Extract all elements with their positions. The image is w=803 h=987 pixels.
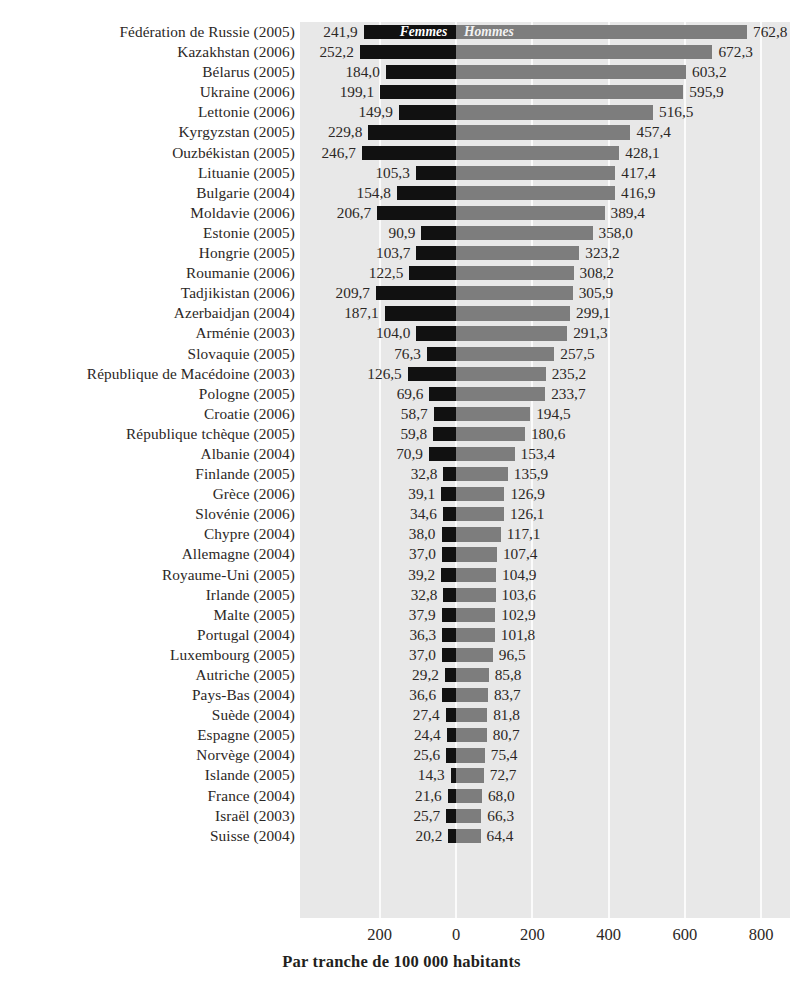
- x-tick-label: 0: [452, 922, 460, 948]
- bar-femmes: [442, 648, 456, 662]
- bars: 20,264,4: [0, 826, 803, 846]
- bars: 37,096,5: [0, 645, 803, 665]
- chart-row: Autriche (2005)29,285,8: [0, 665, 803, 685]
- value-label-femmes: 24,4: [414, 725, 441, 745]
- bars: 32,8135,9: [0, 464, 803, 484]
- bar-hommes: [456, 85, 683, 99]
- value-label-hommes: 81,8: [493, 705, 520, 725]
- bars: 199,1595,9: [0, 82, 803, 102]
- value-label-hommes: 308,2: [580, 263, 614, 283]
- value-label-femmes: 14,3: [418, 765, 445, 785]
- bar-hommes: [456, 809, 481, 823]
- value-label-femmes: 37,0: [409, 544, 436, 564]
- value-label-hommes: 428,1: [625, 143, 659, 163]
- bar-hommes: [456, 608, 495, 622]
- chart-row: Royaume-Uni (2005)39,2104,9: [0, 565, 803, 585]
- bar-femmes: [385, 306, 456, 320]
- x-axis: 2000200400600800: [0, 922, 803, 948]
- value-label-hommes: 257,5: [560, 344, 594, 364]
- bar-femmes: [409, 266, 456, 280]
- value-label-hommes: 358,0: [599, 223, 633, 243]
- bar-hommes: [456, 45, 712, 59]
- value-label-hommes: 103,6: [502, 585, 536, 605]
- value-label-hommes: 180,6: [531, 424, 565, 444]
- bar-hommes: [456, 347, 554, 361]
- value-label-femmes: 36,3: [409, 625, 436, 645]
- value-label-hommes: 66,3: [487, 806, 514, 826]
- chart-row: République de Macédoine (2003)126,5235,2: [0, 364, 803, 384]
- value-label-femmes: 20,2: [416, 826, 443, 846]
- bar-femmes: [408, 367, 456, 381]
- value-label-hommes: 762,8: [753, 22, 787, 42]
- value-label-femmes: 209,7: [336, 283, 370, 303]
- value-label-femmes: 154,8: [357, 183, 391, 203]
- value-label-hommes: 64,4: [487, 826, 514, 846]
- bar-hommes: [456, 829, 481, 843]
- value-label-femmes: 36,6: [409, 685, 436, 705]
- bar-hommes: [456, 668, 489, 682]
- bar-femmes: [429, 447, 456, 461]
- chart-row: Slovénie (2006)34,6126,1: [0, 504, 803, 524]
- x-axis-title-text: Par tranche de 100 000 habitants: [282, 952, 520, 971]
- chart-row: Norvège (2004)25,675,4: [0, 745, 803, 765]
- chart-rows: Fédération de Russie (2005)241,9762,8Fem…: [0, 22, 803, 846]
- value-label-femmes: 38,0: [409, 524, 436, 544]
- bar-femmes: [434, 407, 456, 421]
- bar-femmes: [442, 688, 456, 702]
- value-label-hommes: 233,7: [551, 384, 585, 404]
- chart-row: Israël (2003)25,766,3: [0, 806, 803, 826]
- bar-femmes: [442, 547, 456, 561]
- bar-hommes: [456, 326, 567, 340]
- chart-row: Kazakhstan (2006)252,2672,3: [0, 42, 803, 62]
- chart-row: Portugal (2004)36,3101,8: [0, 625, 803, 645]
- value-label-hommes: 80,7: [493, 725, 520, 745]
- value-label-femmes: 70,9: [396, 444, 423, 464]
- chart-row: Lituanie (2005)105,3417,4: [0, 163, 803, 183]
- bars: 252,2672,3: [0, 42, 803, 62]
- chart-row: Suisse (2004)20,264,4: [0, 826, 803, 846]
- bar-hommes: [456, 367, 546, 381]
- bars: 36,683,7: [0, 685, 803, 705]
- x-tick-label: 600: [673, 922, 698, 948]
- legend-hommes: Hommes: [464, 25, 514, 39]
- x-axis-title: Par tranche de 100 000 habitants: [0, 952, 803, 972]
- value-label-hommes: 126,9: [510, 484, 544, 504]
- value-label-hommes: 135,9: [514, 464, 548, 484]
- chart-row: Luxembourg (2005)37,096,5: [0, 645, 803, 665]
- value-label-hommes: 603,2: [692, 62, 726, 82]
- x-tick-label: 400: [596, 922, 621, 948]
- bar-hommes: [456, 186, 615, 200]
- value-label-femmes: 187,1: [344, 303, 378, 323]
- value-label-hommes: 68,0: [488, 786, 515, 806]
- value-label-femmes: 25,7: [413, 806, 440, 826]
- bar-femmes: [399, 105, 456, 119]
- value-label-femmes: 199,1: [340, 82, 374, 102]
- value-label-hommes: 126,1: [510, 504, 544, 524]
- bar-hommes: [456, 387, 545, 401]
- bars: 76,3257,5: [0, 344, 803, 364]
- value-label-hommes: 595,9: [689, 82, 723, 102]
- value-label-femmes: 34,6: [410, 504, 437, 524]
- value-label-hommes: 72,7: [490, 765, 517, 785]
- bar-femmes: [433, 427, 456, 441]
- value-label-femmes: 32,8: [411, 464, 438, 484]
- value-label-hommes: 85,8: [495, 665, 522, 685]
- bars: 14,372,7: [0, 765, 803, 785]
- bar-hommes: [456, 547, 497, 561]
- x-tick-label: 200: [520, 922, 545, 948]
- bar-femmes: [427, 347, 456, 361]
- bar-hommes: [456, 407, 530, 421]
- bars: 104,0291,3: [0, 323, 803, 343]
- value-label-hommes: 96,5: [499, 645, 526, 665]
- bar-femmes: [448, 789, 456, 803]
- bars: 39,1126,9: [0, 484, 803, 504]
- value-label-femmes: 241,9: [323, 22, 357, 42]
- bars: 187,1299,1: [0, 303, 803, 323]
- chart-row: République tchèque (2005)59,8180,6: [0, 424, 803, 444]
- bar-femmes: [429, 387, 456, 401]
- value-label-femmes: 76,3: [394, 344, 421, 364]
- value-label-femmes: 104,0: [376, 323, 410, 343]
- value-label-femmes: 39,2: [408, 565, 435, 585]
- value-label-hommes: 83,7: [494, 685, 521, 705]
- chart-row: Espagne (2005)24,480,7: [0, 725, 803, 745]
